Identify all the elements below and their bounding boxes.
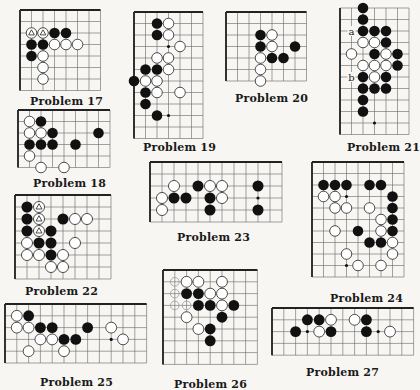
black-stone — [252, 180, 263, 191]
black-stone — [252, 204, 263, 215]
white-stone — [24, 128, 35, 139]
go-board-problem-27 — [272, 308, 414, 355]
black-stone — [381, 72, 392, 83]
white-stone — [72, 39, 83, 50]
black-stone — [152, 64, 163, 75]
go-board-problem-17 — [20, 10, 101, 91]
black-stone — [140, 64, 151, 75]
white-stone — [181, 312, 192, 323]
problem-caption-22: Problem 22 — [25, 285, 98, 298]
black-stone — [59, 334, 70, 345]
black-stone — [45, 237, 56, 248]
black-stone — [381, 26, 392, 37]
black-stone — [204, 204, 215, 215]
black-stone — [152, 18, 163, 29]
black-stone — [70, 139, 81, 150]
white-stone — [49, 39, 60, 50]
black-stone — [387, 191, 398, 202]
white-stone — [376, 226, 387, 237]
black-stone — [278, 53, 289, 64]
go-board-problem-24 — [312, 162, 404, 277]
black-stone — [57, 213, 68, 224]
white-stone — [23, 322, 34, 333]
go-board-problem-20 — [226, 12, 307, 81]
black-stone — [82, 322, 93, 333]
white-stone — [168, 180, 179, 191]
black-stone — [45, 249, 56, 260]
black-stone — [381, 37, 392, 48]
problem-caption-19: Problem 19 — [143, 141, 216, 154]
white-stone — [216, 180, 227, 191]
white-stone — [341, 203, 352, 214]
black-stone — [302, 314, 313, 325]
black-stone — [387, 214, 398, 225]
white-stone — [267, 41, 278, 52]
white-stone — [376, 260, 387, 271]
white-stone — [156, 204, 167, 215]
black-stone — [192, 180, 203, 191]
white-stone — [24, 151, 35, 162]
white-stone — [381, 60, 392, 71]
white-stone — [193, 276, 204, 287]
black-stone — [217, 312, 228, 323]
white-stone — [69, 213, 80, 224]
black-stone — [49, 28, 60, 39]
problem-caption-23: Problem 23 — [177, 231, 250, 244]
black-stone — [358, 72, 369, 83]
white-stone — [21, 237, 32, 248]
black-stone — [21, 201, 32, 212]
black-stone — [381, 83, 392, 94]
white-stone — [24, 116, 35, 127]
black-stone — [93, 128, 104, 139]
white-stone — [314, 326, 325, 337]
white-stone — [326, 314, 337, 325]
white-stone — [21, 249, 32, 260]
white-stone — [38, 51, 49, 62]
white-stone — [57, 261, 68, 272]
white-stone — [330, 226, 341, 237]
white-stone — [385, 326, 396, 337]
white-stone — [38, 74, 49, 85]
black-stone — [267, 53, 278, 64]
white-stone — [346, 49, 357, 60]
white-stone — [267, 30, 278, 41]
white-stone — [47, 334, 58, 345]
black-stone — [290, 326, 301, 337]
problem-caption-21: Problem 21 — [347, 141, 420, 154]
black-stone — [364, 237, 375, 248]
problem-caption-20: Problem 20 — [235, 92, 308, 105]
white-stone — [163, 30, 174, 41]
white-stone — [369, 72, 380, 83]
white-stone — [156, 192, 167, 203]
go-board-problem-23 — [150, 162, 282, 222]
black-stone — [70, 334, 81, 345]
white-stone — [152, 53, 163, 64]
black-stone — [26, 39, 37, 50]
go-board-problem-22 — [15, 195, 111, 279]
black-stone — [24, 139, 35, 150]
white-stone — [255, 76, 266, 87]
white-stone — [318, 191, 329, 202]
white-stone — [59, 162, 70, 173]
problem-caption-27: Problem 27 — [306, 366, 379, 379]
black-stone — [326, 326, 337, 337]
go-board-problem-26 — [163, 270, 257, 364]
white-stone — [45, 261, 56, 272]
black-stone — [358, 83, 369, 94]
black-stone — [26, 51, 37, 62]
black-stone — [369, 26, 380, 37]
black-stone — [392, 60, 403, 71]
white-stone — [364, 203, 375, 214]
white-stone — [38, 62, 49, 73]
black-stone — [168, 192, 179, 203]
white-stone — [217, 288, 228, 299]
black-stone — [361, 326, 372, 337]
white-stone — [175, 41, 186, 52]
white-stone — [349, 314, 360, 325]
white-stone — [330, 203, 341, 214]
white-stone — [163, 18, 174, 29]
black-stone — [23, 310, 34, 321]
white-stone — [106, 322, 117, 333]
black-stone — [35, 322, 46, 333]
black-stone — [47, 322, 58, 333]
